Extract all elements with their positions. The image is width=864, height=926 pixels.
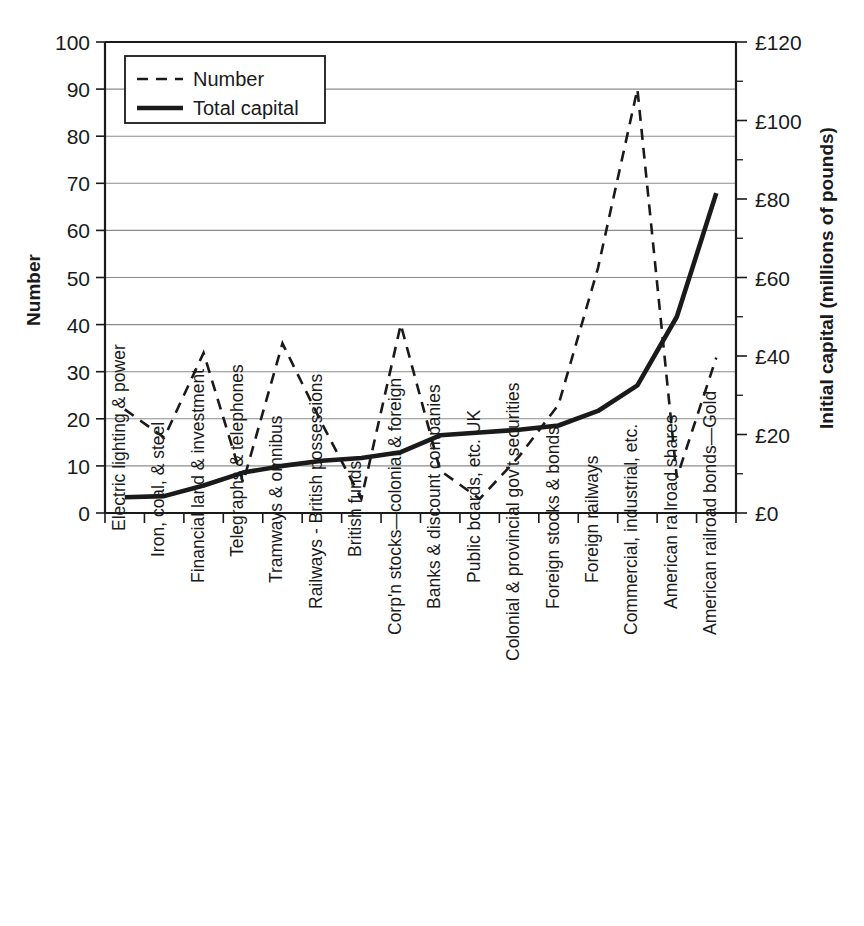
y-axis-right-tick-label: £80: [755, 188, 790, 211]
y-axis-left-title: Number: [23, 254, 44, 326]
legend: Number Total capital: [125, 56, 325, 123]
y-axis-left-ticks: [96, 42, 105, 513]
y-axis-right-tick-label: £60: [755, 267, 790, 290]
y-axis-left-tick-label: 80: [67, 125, 90, 148]
x-axis-category-label: Tramways & omnibus: [266, 415, 286, 583]
y-axis-right-tick-label: £100: [755, 110, 802, 133]
y-axis-left-tick-label: 40: [67, 314, 90, 337]
y-axis-left-tick-label: 70: [67, 172, 90, 195]
y-axis-left-tick-labels: 0102030405060708090100: [55, 31, 90, 525]
x-axis-category-label: Banks & discount companies: [424, 384, 444, 609]
x-axis-category-label: American railroad shares: [661, 414, 681, 609]
x-axis-category-label: Iron, coal, & steel: [148, 422, 168, 557]
y-axis-right-tick-label: £120: [755, 31, 802, 54]
chart-container: 0102030405060708090100 £0£20£40£60£80£10…: [0, 0, 864, 926]
legend-label-total-capital: Total capital: [193, 97, 299, 119]
y-axis-right-ticks: [736, 42, 747, 513]
y-axis-left-tick-label: 50: [67, 267, 90, 290]
x-axis-category-label: British funds: [345, 460, 365, 557]
x-axis-category-label: Public boards, etc. UK: [464, 410, 484, 583]
x-axis-category-label: Electric lighting & power: [109, 344, 129, 531]
x-axis-category-label: Foreign stocks & bonds: [543, 426, 563, 609]
x-axis-category-label: Commercial, industrial, etc.: [621, 424, 641, 635]
y-axis-right-tick-label: £20: [755, 424, 790, 447]
y-axis-left-tick-label: 10: [67, 455, 90, 478]
x-axis-category-label: Colonial & provincial gov't securities: [503, 382, 523, 661]
y-axis-left-tick-label: 90: [67, 78, 90, 101]
y-axis-left-tick-label: 30: [67, 361, 90, 384]
y-axis-right-tick-labels: £0£20£40£60£80£100£120: [755, 31, 802, 525]
x-axis-category-label: Telegraphs & telephones: [227, 364, 247, 557]
y-axis-left-tick-label: 60: [67, 219, 90, 242]
y-axis-left-tick-label: 20: [67, 408, 90, 431]
legend-label-number: Number: [193, 68, 264, 90]
y-axis-right-tick-label: £40: [755, 345, 790, 368]
x-axis-category-label: Foreign railways: [582, 455, 602, 583]
y-axis-left-tick-label: 100: [55, 31, 90, 54]
x-axis-category-label: Railways - British possessions: [306, 373, 326, 609]
x-axis-category-label: Corp'n stocks—colonial & foreign: [385, 378, 405, 635]
x-axis-category-label: Financial land & investment: [188, 369, 208, 583]
y-axis-right-tick-label: £0: [755, 502, 778, 525]
line-chart: 0102030405060708090100 £0£20£40£60£80£10…: [0, 0, 864, 926]
y-axis-left-tick-label: 0: [78, 502, 90, 525]
y-axis-right-title: Initial capital (millions of pounds): [816, 127, 837, 429]
x-axis-category-label: American railroad bonds—Gold: [700, 391, 720, 635]
